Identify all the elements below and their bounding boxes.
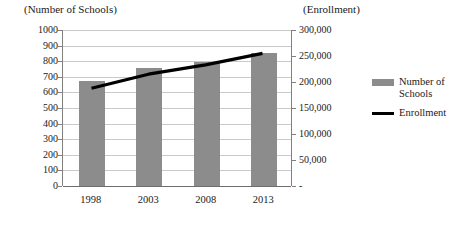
right-axis-ticks: -50,000100,000150,000200,000250,000300,0… xyxy=(292,30,372,186)
right-tick-mark xyxy=(292,56,296,57)
right-tick-label: 250,000 xyxy=(292,51,332,61)
plot-area xyxy=(62,30,292,186)
x-axis-label: 2013 xyxy=(235,194,293,205)
left-tick-label: 1000 xyxy=(0,25,62,35)
bar-swatch-icon xyxy=(372,79,394,86)
legend-item-number-of-schools: Number of Schools xyxy=(372,76,462,100)
chart-legend: Number of Schools Enrollment xyxy=(372,76,462,126)
left-tick-label: 300 xyxy=(0,134,62,144)
legend-item-enrollment: Enrollment xyxy=(372,107,462,119)
left-tick-label: 200 xyxy=(0,150,62,160)
left-tick-label: 100 xyxy=(0,165,62,175)
right-tick-mark xyxy=(292,186,296,187)
right-tick-mark xyxy=(292,160,296,161)
x-axis-label: 2008 xyxy=(177,194,235,205)
left-tick-label: 400 xyxy=(0,119,62,129)
left-tick-label: 700 xyxy=(0,72,62,82)
left-tick-label: 500 xyxy=(0,103,62,113)
left-axis-title: (Number of Schools) xyxy=(24,3,117,15)
right-tick-mark xyxy=(292,82,296,83)
right-tick-mark xyxy=(292,134,296,135)
gridline xyxy=(63,186,291,187)
legend-label-number-of-schools: Number of Schools xyxy=(399,76,462,100)
line-series-enrollment xyxy=(63,30,291,186)
right-tick-label: 100,000 xyxy=(292,129,332,139)
left-tick-label: 800 xyxy=(0,56,62,66)
x-axis-label: 1998 xyxy=(62,194,120,205)
right-tick-label: 300,000 xyxy=(292,25,332,35)
enrollment-polyline xyxy=(92,53,263,88)
left-axis-ticks: 01002003004005006007008009001000 xyxy=(0,30,62,186)
right-tick-label: 150,000 xyxy=(292,103,332,113)
left-tick-mark xyxy=(58,186,62,187)
left-tick-label: 0 xyxy=(0,181,62,191)
left-tick-label: 900 xyxy=(0,41,62,51)
right-tick-label: 200,000 xyxy=(292,77,332,87)
right-axis-title: (Enrollment) xyxy=(303,3,360,15)
right-tick-mark xyxy=(292,108,296,109)
line-swatch-icon xyxy=(372,112,394,115)
legend-label-enrollment: Enrollment xyxy=(399,107,446,119)
right-tick-mark xyxy=(292,30,296,31)
x-axis-label: 2003 xyxy=(120,194,178,205)
combo-chart: (Number of Schools) (Enrollment) 0100200… xyxy=(0,0,462,228)
left-tick-label: 600 xyxy=(0,87,62,97)
right-tick-label: 50,000 xyxy=(292,155,327,165)
